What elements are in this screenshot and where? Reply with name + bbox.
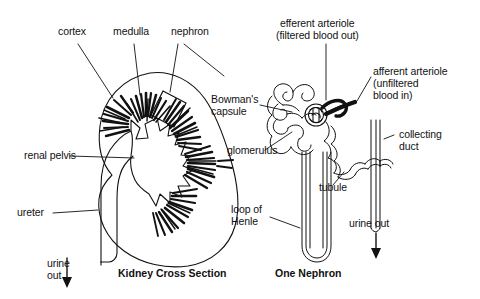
urine-out-arrow-right: [371, 233, 381, 259]
label-urine-out-left-line2: out: [47, 270, 61, 282]
label-afferent-line3: blood in): [373, 90, 412, 102]
label-bowmans-line2: capsule: [211, 106, 247, 118]
label-tubule: tubule: [319, 182, 347, 194]
label-loop-line2: Henle: [231, 216, 258, 228]
kidney-nephron-diagram: cortex medulla nephron renal pelvis uret…: [0, 0, 480, 299]
renal-pelvis-shape: [131, 118, 193, 206]
label-collecting-line2: duct: [399, 141, 418, 153]
label-collecting-line1: collecting: [399, 129, 442, 141]
leader-lines-left: [53, 44, 224, 213]
label-ureter: ureter: [17, 207, 44, 219]
label-bowmans-line1: Bowman's: [211, 94, 258, 106]
label-efferent-line1: efferent arteriole: [280, 18, 354, 30]
label-efferent-line2: (filtered blood out): [276, 30, 359, 42]
label-glomerulus: glomerulus: [227, 145, 277, 157]
distal-convoluted-tubule: [324, 122, 393, 179]
label-afferent-line1: afferent arteriole: [373, 66, 447, 78]
collecting-duct: [371, 120, 380, 232]
loop-of-henle: [302, 152, 331, 262]
ureter-shape: [101, 131, 133, 265]
caption-kidney-cross-section: Kidney Cross Section: [118, 268, 227, 280]
label-medulla: medulla: [113, 26, 149, 38]
label-afferent-line2: (unfiltered: [373, 78, 419, 90]
label-cortex: cortex: [58, 26, 86, 38]
label-urine-out-right: urine out: [349, 218, 389, 230]
label-urine-out-left-line1: urine: [47, 258, 70, 270]
label-renal-pelvis: renal pelvis: [24, 150, 76, 162]
caption-one-nephron: One Nephron: [275, 268, 342, 280]
label-loop-line1: loop of: [231, 204, 262, 216]
label-nephron: nephron: [171, 26, 209, 38]
